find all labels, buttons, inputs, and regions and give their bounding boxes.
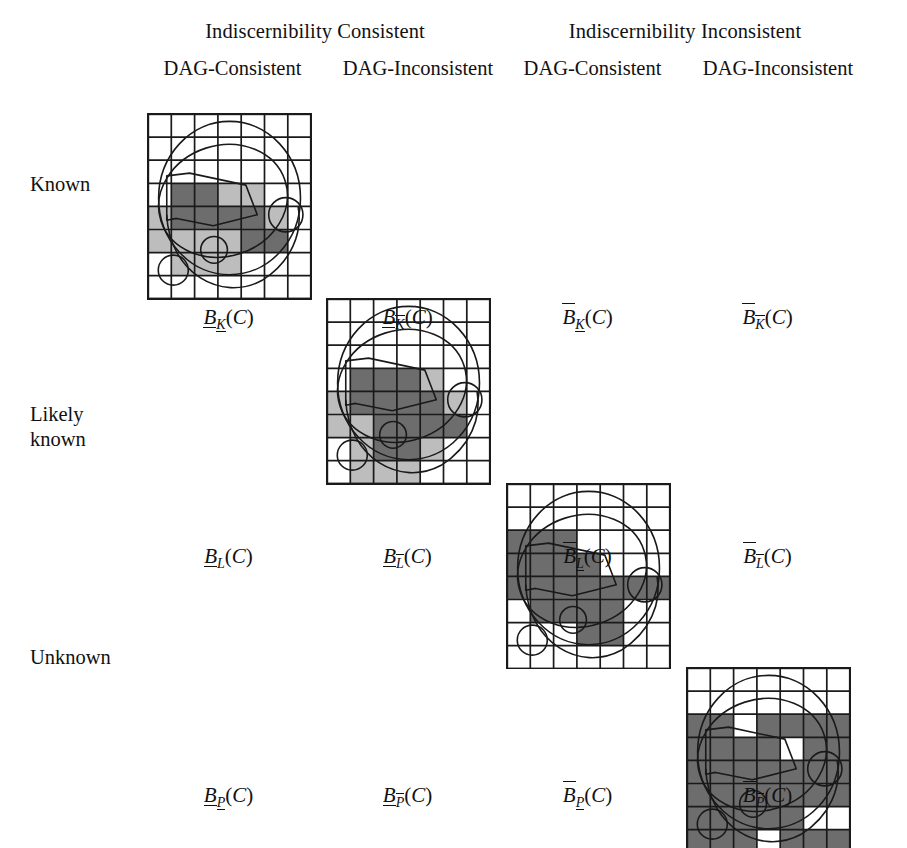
panel-caption: BP(C) [506, 783, 669, 808]
row-label-line: Unknown [30, 646, 111, 668]
grid-cell-certain [803, 830, 826, 848]
caption-base-symbol: B [382, 307, 395, 328]
grid-cell-boundary [148, 229, 171, 252]
caption-base-symbol: B [743, 544, 756, 569]
caption-argument: (C) [225, 544, 253, 568]
grid-cell-certain [443, 414, 466, 437]
caption-subscript: L [576, 556, 584, 572]
caption-base-symbol: B [203, 307, 216, 328]
caption-argument: (C) [584, 544, 612, 568]
caption-base-symbol: B [743, 783, 756, 808]
caption-formula: BP(C) [383, 783, 432, 808]
caption-base-symbol: B [563, 544, 576, 569]
caption-base-symbol: B [562, 305, 575, 330]
caption-formula: BL(C) [383, 544, 432, 569]
grid-cell-certain [827, 715, 850, 738]
group-header-indiscernibility-inconsistent: Indiscernibility Inconsistent [500, 20, 870, 43]
panel-caption: BP(C) [326, 783, 489, 808]
column-header-2: DAG-Consistent [500, 57, 685, 80]
column-header-label: DAG-Inconsistent [703, 57, 853, 79]
caption-base-symbol: B [563, 783, 576, 808]
caption-subscript: K [575, 317, 584, 333]
panel-caption: BK(C) [326, 305, 489, 330]
panel-svg [686, 667, 851, 848]
grid-cell-certain [397, 414, 420, 437]
column-header-3: DAG-Inconsistent [678, 57, 878, 80]
caption-argument: (C) [765, 305, 793, 329]
grid-cell-certain [264, 229, 287, 252]
caption-subscript: P [576, 795, 585, 811]
grid-cell-boundary [350, 460, 373, 483]
grid-cell-certain [600, 622, 623, 645]
grid-cell-boundary [420, 437, 443, 460]
caption-formula: BL(C) [204, 544, 253, 569]
panel-caption: BL(C) [147, 544, 310, 569]
group-header-label: Indiscernibility Inconsistent [569, 20, 801, 42]
grid-cell-certain [757, 738, 780, 761]
grid-cell-certain [687, 715, 710, 738]
grid-cell-certain [827, 830, 850, 848]
grid-cell-certain [623, 576, 646, 599]
approximation-panel [686, 667, 849, 848]
panel-caption: BP(C) [686, 783, 849, 808]
grid-cell-certain [734, 738, 757, 761]
caption-argument: (C) [764, 544, 792, 568]
column-header-label: DAG-Consistent [164, 57, 302, 79]
caption-argument: (C) [585, 305, 613, 329]
caption-argument: (C) [764, 783, 792, 807]
grid-cell-certain [710, 715, 733, 738]
grid-cell-boundary [327, 414, 350, 437]
caption-argument: (C) [404, 544, 432, 568]
grid-cell-certain [577, 576, 600, 599]
grid-cell-certain [171, 183, 194, 206]
caption-formula: BP(C) [204, 783, 253, 808]
row-label-line: Likely [30, 402, 86, 427]
grid-cell-boundary [443, 391, 466, 414]
caption-argument: (C) [226, 305, 254, 329]
grid-cell-certain [577, 599, 600, 622]
panel-caption: BL(C) [326, 544, 489, 569]
caption-subscript: P [756, 795, 765, 811]
grid-cell-boundary [264, 206, 287, 229]
panel-container: BK(C)BK(C)BK(C)BK(C)BL(C)BL(C)BL(C)BL(C)… [0, 0, 907, 848]
row-label-unknown: Unknown [30, 645, 111, 670]
grid-cell-certain [374, 368, 397, 391]
panel-caption: BK(C) [147, 305, 310, 330]
panel-svg [506, 483, 671, 670]
caption-argument: (C) [404, 783, 432, 807]
caption-subscript: K [395, 317, 404, 333]
caption-formula: BK(C) [742, 305, 792, 330]
row-label-likely-known: Likely known [30, 402, 86, 452]
caption-formula: BL(C) [563, 544, 612, 569]
caption-subscript: L [217, 556, 225, 572]
panel-caption: BP(C) [147, 783, 310, 808]
row-label-line: known [30, 427, 86, 452]
grid-cell-certain [710, 738, 733, 761]
grid-cell-certain [397, 368, 420, 391]
panel-caption: BL(C) [506, 544, 669, 569]
caption-formula: BP(C) [743, 783, 792, 808]
caption-subscript: K [755, 317, 764, 333]
grid-cell-certain [757, 761, 780, 784]
caption-subscript: P [217, 795, 226, 811]
caption-argument: (C) [225, 783, 253, 807]
column-header-label: DAG-Inconsistent [343, 57, 493, 79]
row-label-line: Known [30, 173, 90, 195]
grid-cell-certain [803, 761, 826, 784]
column-header-1: DAG-Inconsistent [318, 57, 518, 80]
panel-caption: BL(C) [686, 544, 849, 569]
approximation-panel [506, 483, 669, 668]
column-header-label: DAG-Consistent [524, 57, 662, 79]
grid-cell-certain [554, 599, 577, 622]
grid-cell-boundary [218, 183, 241, 206]
caption-base-symbol: B [383, 785, 396, 806]
caption-subscript: P [396, 795, 405, 811]
caption-base-symbol: B [742, 305, 755, 330]
caption-argument: (C) [584, 783, 612, 807]
grid-cell-certain [374, 414, 397, 437]
panel-caption: BK(C) [686, 305, 849, 330]
caption-formula: BL(C) [743, 544, 792, 569]
caption-subscript: K [216, 317, 225, 333]
grid-cell-certain [195, 183, 218, 206]
caption-subscript: L [756, 556, 764, 572]
